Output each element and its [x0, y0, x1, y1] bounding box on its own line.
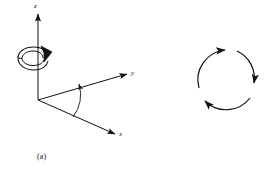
rotation-arrowhead	[41, 46, 52, 62]
x-axis-line	[38, 100, 115, 134]
panel-a-drawing	[0, 0, 140, 177]
curved-rotation-arrow-icon	[18, 46, 52, 70]
rotation-ribbon-inner	[22, 51, 44, 66]
arc-y-to-z-path	[205, 98, 250, 110]
arc-y-to-z	[205, 98, 250, 110]
z-axis-label: z	[34, 2, 37, 10]
arc-z-to-x-path	[198, 50, 225, 88]
panel-a-coordinate-axes: z y x (a)	[0, 0, 140, 177]
x-axis	[38, 100, 115, 134]
panel-b-cyclic-diagram: x y z (b)	[140, 0, 279, 177]
figure-container: z y x (a) x y	[0, 0, 279, 177]
arc-z-to-x	[198, 50, 225, 88]
panel-a-caption: (a)	[37, 152, 46, 161]
x-axis-label: x	[119, 130, 122, 138]
rotation-ribbon-cap	[18, 58, 22, 59]
arc-x-to-y-path	[237, 51, 254, 83]
y-axis-label: y	[131, 69, 134, 77]
y-axis-line	[38, 74, 127, 100]
panel-b-drawing	[140, 0, 279, 177]
arc-x-to-y	[237, 51, 254, 83]
y-axis	[38, 74, 127, 100]
